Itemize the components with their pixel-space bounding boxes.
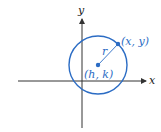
x-axis-label: x bbox=[149, 74, 156, 87]
circle-point bbox=[116, 42, 120, 46]
point-label: (x, y) bbox=[121, 35, 149, 48]
center-label: (h, k) bbox=[84, 68, 113, 81]
radius-line bbox=[98, 44, 118, 65]
radius-label: r bbox=[102, 45, 108, 58]
y-axis-label: y bbox=[77, 4, 85, 17]
circle-diagram: y x (x, y) (h, k) r bbox=[0, 0, 161, 132]
center-point bbox=[96, 63, 100, 67]
